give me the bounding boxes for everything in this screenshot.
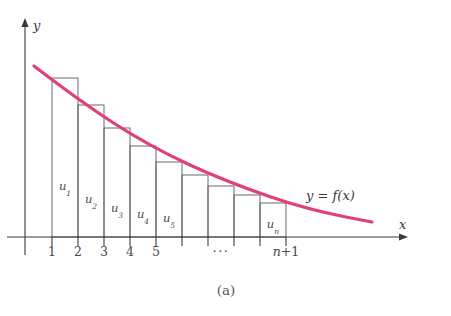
bar-label: u4 bbox=[137, 207, 149, 225]
riemann-rectangle bbox=[208, 186, 234, 237]
bar-label: un bbox=[267, 217, 279, 235]
riemann-rectangle bbox=[78, 105, 104, 237]
riemann-rectangle bbox=[130, 146, 156, 237]
axes-group: y x bbox=[7, 18, 408, 255]
x-axis-label: x bbox=[399, 217, 407, 232]
riemann-rectangle bbox=[52, 78, 78, 237]
riemann-rectangle bbox=[234, 195, 260, 237]
y-axis-label: y bbox=[32, 18, 41, 33]
riemann-rectangle bbox=[182, 175, 208, 237]
figure-caption: (a) bbox=[217, 282, 236, 298]
bar-label: u2 bbox=[85, 192, 97, 210]
x-tick-label: 4 bbox=[126, 244, 134, 259]
x-tick-label: 1 bbox=[48, 244, 56, 259]
tick-labels-group: 12345···n+1 bbox=[48, 244, 299, 259]
ticks-group bbox=[52, 237, 286, 246]
x-axis-arrowhead bbox=[399, 233, 408, 240]
riemann-sum-diagram: y x 12345···n+1 y = f(x) u1u2u3u4u5un (a… bbox=[0, 0, 451, 316]
x-tick-label: 5 bbox=[152, 244, 160, 259]
bar-label: u5 bbox=[163, 211, 175, 229]
y-axis-arrowhead bbox=[21, 18, 28, 27]
x-tick-ellipsis: ··· bbox=[213, 244, 230, 259]
x-tick-label: 3 bbox=[100, 244, 108, 259]
riemann-rectangle bbox=[156, 162, 182, 237]
bar-label: u1 bbox=[59, 179, 71, 197]
figure-container: y x 12345···n+1 y = f(x) u1u2u3u4u5un (a… bbox=[0, 0, 451, 316]
x-tick-label-n-plus-1: n+1 bbox=[273, 244, 300, 259]
bar-label: u3 bbox=[111, 201, 123, 219]
x-tick-label: 2 bbox=[74, 244, 82, 259]
riemann-rectangle bbox=[104, 128, 130, 237]
function-label: y = f(x) bbox=[305, 188, 355, 203]
